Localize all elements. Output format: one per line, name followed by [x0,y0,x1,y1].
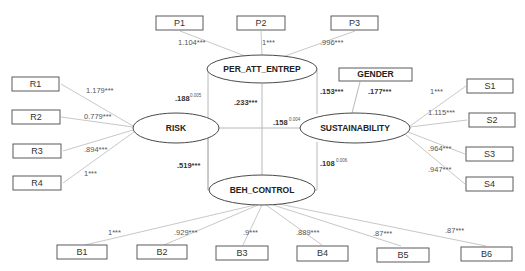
svg-text:0.004: 0.004 [289,117,301,122]
svg-text:P1: P1 [174,18,185,28]
svg-text:PER_ATT_ENTREP: PER_ATT_ENTREP [223,64,301,74]
coef-risk-per-att: .188 0.005 [175,93,202,103]
svg-text:S3: S3 [484,149,495,159]
indicator-b2: B2 [137,245,187,259]
svg-text:R3: R3 [31,146,43,156]
indicator-p1: P1 [156,16,203,30]
svg-text:RISK: RISK [166,123,187,133]
construct-sustainability: SUSTAINABILITY [300,113,410,143]
loading-r1: 1.179*** [86,86,114,95]
indicator-b5: B5 [377,248,429,262]
indicator-b6: B6 [461,247,512,261]
indicator-r3: R3 [13,144,61,158]
coef-gender-sust: .177*** [368,87,391,96]
construct-gender: GENDER [339,68,412,81]
indicator-s2: S2 [469,113,515,127]
loading-b2: .929*** [174,228,197,237]
svg-text:P2: P2 [255,18,266,28]
loading-p1: 1.104*** [178,38,206,47]
coef-risk-sust: .158 0.004 [273,117,301,127]
svg-text:B4: B4 [317,248,328,258]
svg-text:P3: P3 [349,18,360,28]
coef-risk-beh: .519*** [177,161,200,170]
svg-text:B1: B1 [76,247,87,257]
svg-text:R2: R2 [30,112,42,122]
coef-per-att-sust: .153*** [320,87,343,96]
loading-b6: .87*** [445,226,464,235]
indicator-s3: S3 [466,147,513,161]
loading-s4: .947*** [428,165,451,174]
indicator-b3: B3 [216,246,268,260]
construct-risk: RISK [133,113,219,143]
svg-text:B5: B5 [397,250,408,260]
loading-b4: .889*** [296,228,319,237]
svg-text:R4: R4 [31,178,43,188]
construct-per-att-entrep: PER_ATT_ENTREP [207,55,317,83]
loading-s1: 1*** [430,87,443,96]
loading-r3: .894*** [84,145,107,154]
loading-p3: .996*** [320,38,343,47]
loading-s3: .964*** [428,144,451,153]
svg-text:0.005: 0.005 [190,93,202,98]
svg-text:GENDER: GENDER [357,69,393,79]
path-gender-sust [352,82,360,113]
svg-text:S2: S2 [486,115,497,125]
edge-b1 [85,205,255,245]
loading-s2: 1.115*** [428,108,455,117]
svg-text:0.006: 0.006 [336,158,348,163]
svg-text:B2: B2 [156,247,167,257]
svg-text:SUSTAINABILITY: SUSTAINABILITY [320,123,390,133]
construct-beh-control: BEH_CONTROL [209,175,315,205]
loading-r4: 1*** [84,169,97,178]
edge-b3 [243,205,262,245]
svg-text:.188: .188 [175,94,190,103]
svg-text:S1: S1 [484,81,495,91]
indicator-p2: P2 [237,16,285,30]
indicator-p3: P3 [331,16,378,30]
path-beh-sust [315,142,317,190]
sem-path-diagram: P1 P2 P3 1.104*** 1*** .996*** PER_ATT_E… [0,0,525,271]
indicator-b4: B4 [297,246,348,261]
svg-text:S4: S4 [484,179,495,189]
loading-p2: 1*** [262,38,275,47]
svg-text:R1: R1 [30,79,42,89]
loading-b1: 1*** [108,228,121,237]
indicator-s1: S1 [467,79,513,93]
loading-r2: 0.779*** [84,112,112,121]
svg-text:BEH_CONTROL: BEH_CONTROL [230,185,295,195]
svg-text:B6: B6 [481,249,492,259]
indicator-r1: R1 [12,77,59,91]
indicator-s4: S4 [466,177,513,191]
svg-text:B3: B3 [236,248,247,258]
indicator-b1: B1 [57,245,107,259]
edge-r4 [63,132,134,183]
indicator-r2: R2 [12,110,60,124]
coef-beh-sust: .108 0.006 [320,158,348,168]
edge-b2 [164,205,258,245]
loading-b3: .9*** [243,228,258,237]
edge-s2 [410,120,467,127]
coef-beh-per-att: .233*** [234,98,257,107]
loading-b5: .87*** [373,229,392,238]
indicator-r4: R4 [13,176,61,190]
svg-text:.108: .108 [320,159,335,168]
svg-text:.158: .158 [273,118,288,127]
